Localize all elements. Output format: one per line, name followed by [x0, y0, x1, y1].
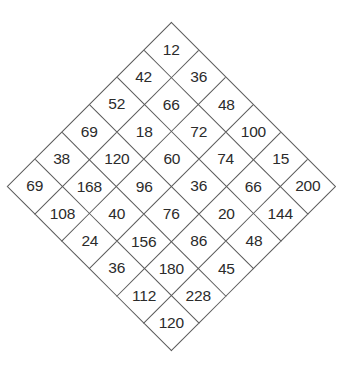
cell-value: 24	[81, 233, 98, 249]
cell-value: 69	[27, 178, 44, 194]
cell-value: 120	[159, 315, 184, 331]
cell-value: 36	[108, 260, 125, 276]
cell-value: 42	[136, 69, 153, 85]
cell-value: 96	[136, 178, 153, 194]
cell-value: 18	[136, 124, 153, 139]
cell-value: 100	[241, 124, 266, 140]
cell-value: 36	[190, 178, 207, 194]
cell-value: 156	[132, 233, 157, 249]
cell-value: 40	[108, 206, 125, 222]
cell-value: 12	[163, 42, 180, 58]
cell-value: 168	[77, 178, 102, 194]
cell-value: 86	[190, 233, 207, 249]
cell-value: 36	[190, 69, 207, 85]
cell-value: 228	[186, 288, 211, 304]
cell-value: 52	[108, 96, 125, 111]
cell-value: 69	[81, 124, 98, 140]
cell-value: 74	[218, 151, 235, 167]
cell-value: 45	[218, 260, 235, 276]
grid-rotation-wrapper: 12 36 48 100 15 200 42 66 72 74 66 144 5…	[7, 21, 336, 350]
cell-value: 108	[50, 206, 75, 222]
cell-value: 120	[104, 151, 129, 167]
cell-value: 180	[159, 260, 184, 276]
cell-value: 60	[163, 151, 180, 167]
cell-value: 76	[163, 206, 180, 222]
cell-value: 66	[163, 96, 180, 111]
diamond-number-grid: 12 36 48 100 15 200 42 66 72 74 66 144 5…	[0, 0, 349, 366]
cell-value: 66	[245, 178, 262, 194]
cell-value: 112	[132, 288, 156, 304]
cell-value: 200	[295, 178, 320, 194]
cell-value: 48	[245, 233, 262, 249]
cell-value: 48	[218, 96, 235, 111]
cell-value: 72	[190, 124, 207, 139]
cell-value: 15	[272, 151, 289, 167]
cell-value: 144	[268, 206, 293, 222]
cell-value: 20	[218, 206, 235, 222]
number-grid: 12 36 48 100 15 200 42 66 72 74 66 144 5…	[7, 21, 336, 350]
cell-value: 38	[54, 151, 71, 167]
